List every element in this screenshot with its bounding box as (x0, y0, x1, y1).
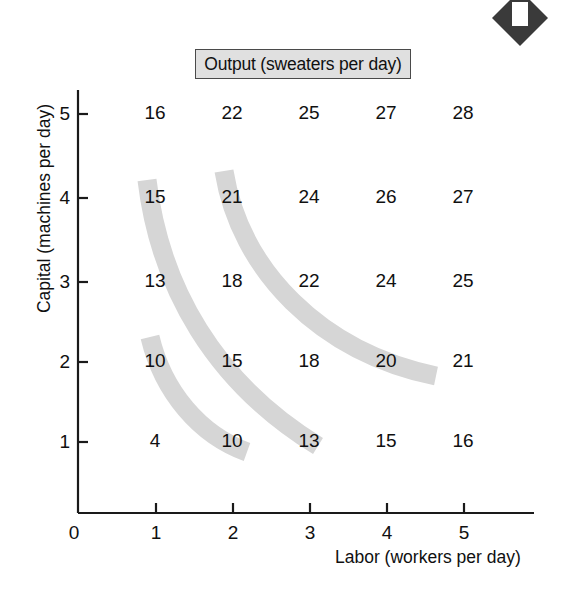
output-value: 27 (446, 186, 480, 208)
output-value: 15 (369, 430, 403, 452)
x-axis-ticks (156, 503, 464, 513)
plot-area (0, 0, 565, 595)
output-value: 25 (446, 270, 480, 292)
output-value: 18 (215, 270, 249, 292)
x-tick-label-4: 4 (372, 522, 402, 544)
output-value: 22 (292, 270, 326, 292)
x-tick-label-5: 5 (449, 522, 479, 544)
output-value: 24 (369, 270, 403, 292)
output-value: 10 (215, 430, 249, 452)
x-tick-label-3: 3 (295, 522, 325, 544)
y-tick-label-2: 2 (46, 351, 70, 373)
output-value: 21 (215, 186, 249, 208)
isoquant-curves (147, 171, 436, 452)
output-value: 13 (292, 430, 326, 452)
output-value: 15 (215, 350, 249, 372)
output-value: 22 (215, 102, 249, 124)
y-tick-label-5: 5 (46, 103, 70, 125)
output-value: 16 (446, 430, 480, 452)
x-tick-label-2: 2 (218, 522, 248, 544)
output-value: 25 (292, 102, 326, 124)
output-value: 18 (292, 350, 326, 372)
output-value: 20 (369, 350, 403, 372)
output-value: 13 (138, 270, 172, 292)
output-value: 15 (138, 186, 172, 208)
x-tick-label-0: 0 (59, 522, 89, 544)
output-value: 21 (446, 350, 480, 372)
x-tick-label-1: 1 (141, 522, 171, 544)
y-axis-ticks (78, 114, 88, 442)
output-value: 28 (446, 102, 480, 124)
output-value: 10 (138, 350, 172, 372)
isoquant-figure: Output (sweaters per day) (0, 0, 565, 595)
output-value: 4 (138, 430, 172, 452)
output-value: 26 (369, 186, 403, 208)
output-value: 27 (369, 102, 403, 124)
y-tick-label-3: 3 (46, 271, 70, 293)
y-tick-label-4: 4 (46, 187, 70, 209)
y-tick-label-1: 1 (46, 431, 70, 453)
isoquant-21-curve (224, 171, 436, 376)
output-value: 16 (138, 102, 172, 124)
x-axis-title: Labor (workers per day) (335, 547, 521, 568)
output-value: 24 (292, 186, 326, 208)
